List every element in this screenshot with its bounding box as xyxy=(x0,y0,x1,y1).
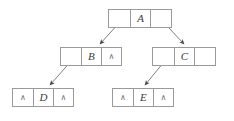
node-b-label: B xyxy=(88,51,95,62)
node-b-left-pointer-cell[interactable] xyxy=(61,48,81,65)
node-d-right-null-marker: ∧ xyxy=(61,94,67,102)
node-d-data-cell: D xyxy=(33,89,53,106)
node-b-right-null-marker: ∧ xyxy=(109,53,115,61)
node-e-data-cell: E xyxy=(133,89,153,106)
node-a-label: A xyxy=(137,13,144,24)
node-d-left-null-marker: ∧ xyxy=(20,94,26,102)
node-a-data-cell: A xyxy=(130,10,151,27)
node-b-right-pointer-cell[interactable]: ∧ xyxy=(101,48,121,65)
node-e-left-null-marker: ∧ xyxy=(120,94,126,102)
node-e-label: E xyxy=(140,92,147,103)
node-e-right-null-marker: ∧ xyxy=(161,94,167,102)
node-a-right-pointer-cell[interactable] xyxy=(150,10,171,27)
node-e-right-pointer-cell[interactable]: ∧ xyxy=(153,89,173,106)
node-d-right-pointer-cell[interactable]: ∧ xyxy=(53,89,73,106)
tree-node-d[interactable]: ∧ D ∧ xyxy=(12,88,74,107)
node-c-right-pointer-cell[interactable] xyxy=(194,48,215,65)
tree-node-c[interactable]: C xyxy=(152,47,216,66)
node-b-data-cell: B xyxy=(81,48,101,65)
node-c-label: C xyxy=(181,51,188,62)
tree-node-e[interactable]: ∧ E ∧ xyxy=(112,88,174,107)
node-d-left-pointer-cell[interactable]: ∧ xyxy=(13,89,33,106)
node-c-data-cell: C xyxy=(174,48,195,65)
tree-node-a[interactable]: A xyxy=(108,9,172,28)
node-d-label: D xyxy=(40,92,48,103)
tree-node-b[interactable]: B ∧ xyxy=(60,47,122,66)
node-c-left-pointer-cell[interactable] xyxy=(153,48,174,65)
node-e-left-pointer-cell[interactable]: ∧ xyxy=(113,89,133,106)
node-a-left-pointer-cell[interactable] xyxy=(109,10,130,27)
binary-tree-diagram: A B ∧ C ∧ D ∧ xyxy=(0,0,234,121)
